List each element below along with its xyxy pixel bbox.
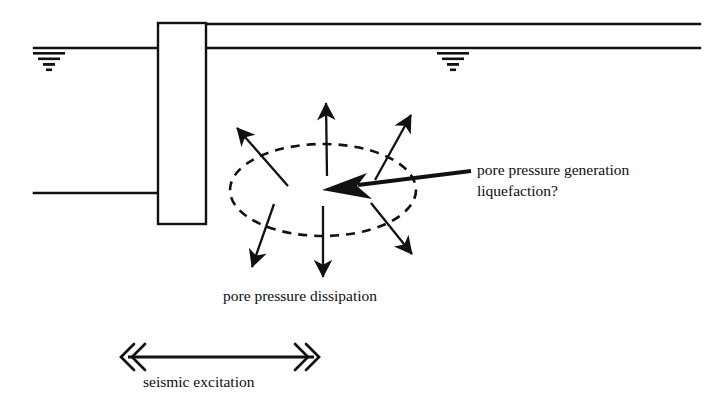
caisson-structure — [158, 23, 206, 224]
label-generation-line1: pore pressure generation — [477, 161, 629, 178]
arrow-up-right — [375, 115, 411, 180]
arrow-up — [326, 103, 327, 176]
label-generation-line2: liquefaction? — [477, 181, 629, 202]
label-pore-pressure-generation: pore pressure generation liquefaction? — [477, 160, 629, 202]
pore-pressure-generation-pointer-arrow — [322, 171, 471, 199]
water-table-symbol-right — [437, 52, 469, 71]
schematic-drawing — [0, 0, 716, 418]
seismic-excitation-double-arrow — [121, 344, 319, 370]
water-table-symbol-left — [33, 52, 65, 71]
label-pore-pressure-dissipation: pore pressure dissipation — [223, 286, 377, 307]
diagram-canvas: pore pressure generation liquefaction? p… — [0, 0, 716, 418]
label-seismic-excitation: seismic excitation — [143, 372, 254, 393]
arrow-up-left — [237, 128, 288, 186]
arrow-down-left — [252, 204, 274, 267]
